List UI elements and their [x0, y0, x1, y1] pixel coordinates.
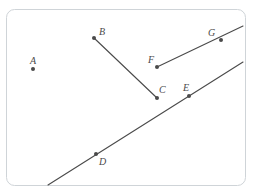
point-label-e: E: [183, 83, 189, 93]
point-dot-b: [92, 36, 96, 40]
point-dot-a: [31, 67, 35, 71]
point-label-a: A: [30, 56, 36, 66]
point-label-c: C: [159, 85, 166, 95]
point-label-f: F: [148, 55, 154, 65]
point-dot-c: [155, 96, 159, 100]
point-dot-g: [219, 38, 223, 42]
point-dot-d: [94, 152, 98, 156]
point-dot-e: [187, 94, 191, 98]
geometry-figure: A B C D E F G: [0, 0, 253, 194]
point-label-b: B: [99, 27, 105, 37]
point-label-g: G: [208, 28, 215, 38]
point-dot-f: [155, 65, 159, 69]
point-label-d: D: [99, 157, 106, 167]
